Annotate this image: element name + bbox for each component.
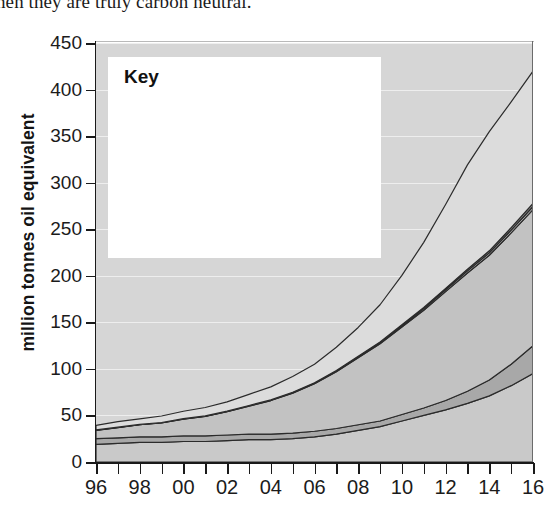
x-axis-tick-label: 98 <box>120 476 160 499</box>
y-axis-tick <box>86 229 95 231</box>
x-axis-tick-major <box>402 463 404 474</box>
y-axis-tick <box>86 322 95 324</box>
y-axis-tick <box>86 90 95 92</box>
caption-text: hen they are truly carbon neutral. <box>0 0 547 13</box>
x-axis-tick-label: 00 <box>163 476 203 499</box>
y-axis-tick-label: 150 <box>36 311 82 333</box>
y-axis-line <box>95 41 96 464</box>
x-axis-tick-minor <box>293 463 294 474</box>
chart-figure: hen they are truly carbon neutral. 45040… <box>0 0 547 509</box>
y-axis-tick-label: 400 <box>36 79 82 101</box>
x-axis-tick-minor <box>380 463 381 474</box>
y-axis-tick <box>86 183 95 185</box>
x-axis-tick-major <box>358 463 360 474</box>
x-axis-tick-minor <box>424 463 425 474</box>
x-axis-tick-major <box>489 463 491 474</box>
x-axis-tick-minor <box>205 463 206 474</box>
x-axis-tick-major <box>183 463 185 474</box>
y-axis-title: million tonnes oil equivalent <box>18 33 39 433</box>
y-axis-tick <box>86 369 95 371</box>
x-axis-tick-major <box>533 463 535 474</box>
x-axis-tick-label: 02 <box>207 476 247 499</box>
y-axis-tick-label: 200 <box>36 265 82 287</box>
y-axis-tick <box>86 43 95 45</box>
x-axis-tick-label: 06 <box>295 476 335 499</box>
x-axis-tick-major <box>446 463 448 474</box>
y-axis-tick <box>86 415 95 417</box>
y-axis-tick-label: 250 <box>36 218 82 240</box>
x-axis-tick-label: 08 <box>338 476 378 499</box>
x-axis-tick-major <box>96 463 98 474</box>
x-axis-tick-minor <box>118 463 119 474</box>
y-axis-tick-label: 100 <box>36 358 82 380</box>
x-axis-tick-major <box>271 463 273 474</box>
legend-box: Key <box>108 57 381 258</box>
y-axis-tick <box>86 136 95 138</box>
y-axis-tick-label: 350 <box>36 125 82 147</box>
x-axis-tick-minor <box>467 463 468 474</box>
x-axis-tick-minor <box>336 463 337 474</box>
y-axis-tick-label: 0 <box>36 451 82 473</box>
x-axis-tick-label: 04 <box>251 476 291 499</box>
x-axis-tick-label: 96 <box>76 476 116 499</box>
y-axis-tick-label: 300 <box>36 172 82 194</box>
y-axis-tick <box>86 276 95 278</box>
plot-frame-top <box>95 41 534 42</box>
x-axis-tick-label: 10 <box>382 476 422 499</box>
plot-frame-right <box>532 41 533 464</box>
x-axis-tick-minor <box>249 463 250 474</box>
x-axis-tick-minor <box>162 463 163 474</box>
x-axis-tick-minor <box>511 463 512 474</box>
x-axis-tick-major <box>227 463 229 474</box>
x-axis-tick-label: 16 <box>513 476 547 499</box>
y-axis-tick <box>86 462 95 464</box>
y-axis-tick-label: 50 <box>36 404 82 426</box>
x-axis-tick-major <box>140 463 142 474</box>
legend-title: Key <box>124 66 159 88</box>
y-axis-tick-label: 450 <box>36 32 82 54</box>
x-axis-tick-major <box>315 463 317 474</box>
x-axis-tick-label: 12 <box>426 476 466 499</box>
page-caption-clipped: hen they are truly carbon neutral. <box>0 0 547 13</box>
x-axis-tick-label: 14 <box>469 476 509 499</box>
